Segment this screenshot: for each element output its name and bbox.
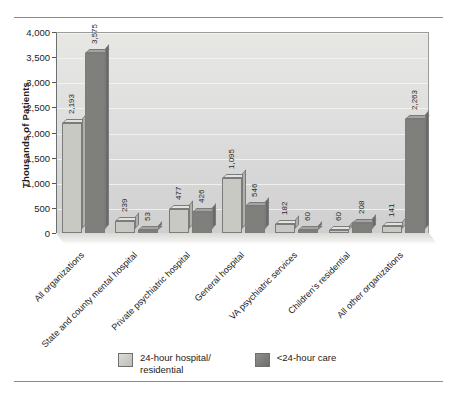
bar-side-face	[425, 111, 429, 229]
bar	[138, 230, 158, 233]
bar-front-face	[275, 224, 295, 233]
y-tick-label: 0	[4, 228, 50, 239]
bar-front-face	[115, 221, 135, 233]
y-tick-label: 3,000	[4, 77, 50, 88]
legend-label: <24-hour care	[277, 352, 336, 364]
bar	[245, 206, 265, 233]
bar-side-face	[105, 45, 109, 229]
bar-front-face	[382, 226, 402, 233]
bar	[405, 119, 425, 233]
y-tick-mark	[52, 233, 56, 234]
bar-front-face	[405, 119, 425, 233]
y-tick-label: 2,500	[4, 102, 50, 113]
x-category-label: State and county mental hospital	[40, 250, 139, 349]
bar	[275, 224, 295, 233]
bar-value-label: 208	[357, 200, 366, 213]
bar-value-label: 546	[250, 183, 259, 196]
gridline	[57, 83, 428, 84]
bar-front-face	[192, 212, 212, 233]
bar-front-face	[329, 230, 349, 233]
bar-value-label: 141	[387, 204, 396, 217]
bar	[62, 123, 82, 233]
bar	[222, 178, 242, 233]
plot-floor	[56, 233, 437, 244]
bar-side-face	[372, 214, 376, 229]
legend-item[interactable]: 24-hour hospital/residential	[118, 352, 211, 375]
gridline	[57, 159, 428, 160]
bar	[192, 212, 212, 233]
bar	[85, 53, 105, 233]
gridline	[57, 108, 428, 109]
top-rule	[14, 17, 443, 18]
bar	[329, 230, 349, 233]
bar-value-label: 426	[197, 189, 206, 202]
y-tick-label: 500	[4, 202, 50, 213]
y-tick-label: 1,500	[4, 152, 50, 163]
bar-value-label: 53	[143, 212, 152, 221]
bar-value-label: 477	[174, 187, 183, 200]
bar-value-label: 1,095	[227, 149, 236, 169]
gridline	[57, 58, 428, 59]
bar-front-face	[222, 178, 242, 233]
bar	[115, 221, 135, 233]
bar-front-face	[298, 230, 318, 233]
x-category-label: General hospital	[192, 250, 245, 303]
bar-value-label: 239	[120, 199, 129, 212]
bar-side-face	[212, 203, 216, 229]
legend-swatch-dark	[255, 353, 270, 367]
bar-value-label: 3,575	[90, 24, 99, 44]
y-tick-label: 4,000	[4, 27, 50, 38]
bar-value-label: 2,263	[410, 90, 419, 110]
bar-side-face	[265, 197, 269, 229]
bar-front-face	[138, 230, 158, 233]
legend-item[interactable]: <24-hour care	[255, 352, 336, 375]
gridline	[57, 134, 428, 135]
bar-value-label: 60	[303, 212, 312, 221]
bar-value-label: 2,193	[67, 94, 76, 114]
legend-swatch-light	[118, 353, 133, 367]
plot-area: 2,1933,575239534774261,09554618260602081…	[56, 32, 429, 233]
bar-value-label: 60	[334, 212, 343, 221]
y-tick-label: 1,000	[4, 177, 50, 188]
legend: 24-hour hospital/residential<24-hour car…	[118, 352, 336, 375]
y-tick-label: 3,500	[4, 52, 50, 63]
legend-label: 24-hour hospital/residential	[140, 352, 211, 375]
gridline	[57, 33, 428, 34]
bar-front-face	[85, 53, 105, 233]
y-tick-label: 2,000	[4, 127, 50, 138]
bar-side-face	[295, 215, 299, 229]
x-category-label: All organizations	[32, 250, 86, 304]
bar-side-face	[135, 212, 139, 229]
bar-front-face	[352, 223, 372, 233]
bar-top-face	[138, 226, 163, 230]
bar-front-face	[169, 209, 189, 233]
bar-front-face	[245, 206, 265, 233]
bar	[298, 230, 318, 233]
bar	[169, 209, 189, 233]
bar-front-face	[62, 123, 82, 233]
bar	[352, 223, 372, 233]
bar	[382, 226, 402, 233]
bottom-rule	[14, 381, 443, 382]
figure: Thousands of Patients 4,0003,5003,0002,5…	[0, 0, 457, 398]
bar-value-label: 182	[280, 202, 289, 215]
